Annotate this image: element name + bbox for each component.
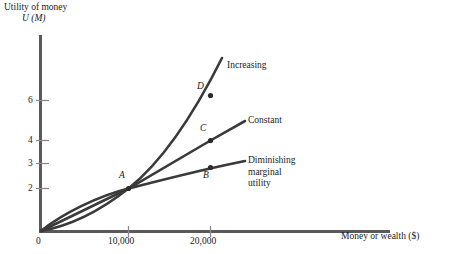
curve-increasing xyxy=(41,58,222,231)
curve-label-increasing: Increasing xyxy=(227,60,267,72)
y-tick-label-6: 6 xyxy=(28,95,33,105)
y-axis-title-line2: U (M) xyxy=(22,13,45,24)
x-axis-title: Money or wealth ($) xyxy=(341,231,419,242)
utility-of-money-chart xyxy=(0,0,454,254)
y-tick-label-3: 3 xyxy=(28,158,33,168)
point-marker-a xyxy=(126,186,131,191)
curve-label-diminishing-line1: Diminishing xyxy=(248,155,296,167)
point-label-c: C xyxy=(200,123,206,133)
y-tick-marks xyxy=(36,101,49,189)
x-tick-label-20000: 20,000 xyxy=(190,236,216,246)
y-tick-label-2: 2 xyxy=(28,183,33,193)
x-tick-label-0: 0 xyxy=(36,236,41,246)
point-marker-c xyxy=(208,138,213,143)
point-marker-d xyxy=(208,93,213,98)
y-axis-title-line1: Utility of money xyxy=(4,2,67,13)
curve-label-diminishing-line3: utility xyxy=(248,178,296,190)
point-label-a: A xyxy=(119,170,125,180)
y-tick-label-4: 4 xyxy=(28,135,33,145)
point-label-b: B xyxy=(203,170,209,180)
point-label-d: D xyxy=(197,81,204,91)
x-tick-label-10000: 10,000 xyxy=(108,236,134,246)
curve-label-diminishing-line2: marginal xyxy=(248,167,296,179)
curve-diminishing xyxy=(41,161,245,231)
curve-label-constant: Constant xyxy=(248,115,282,127)
curve-label-diminishing: Diminishing marginal utility xyxy=(248,155,296,190)
